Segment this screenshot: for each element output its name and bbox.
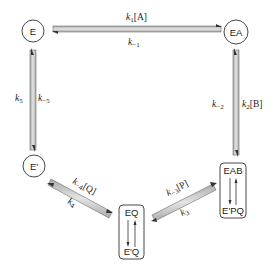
svg-text:EQ: EQ bbox=[125, 207, 139, 218]
mechanism-diagram: E EA E' EAB E'PQ EQ E'Q k1[A] bbox=[0, 0, 278, 274]
node-E-prime: E' bbox=[23, 155, 45, 177]
label-km1: k−1 bbox=[128, 37, 140, 49]
label-k2B: k2[B] bbox=[242, 99, 262, 111]
edge-E-EA: k1[A] k−1 bbox=[52, 12, 222, 49]
node-EQ-EQ-box: EQ E'Q bbox=[119, 205, 144, 259]
node-EAB-EPQ-box: EAB E'PQ bbox=[220, 163, 246, 218]
label-k5: k5 bbox=[15, 93, 23, 105]
svg-text:EA: EA bbox=[230, 27, 243, 38]
label-km3P: k−3[P] bbox=[164, 178, 190, 199]
node-EA: EA bbox=[224, 20, 248, 44]
svg-text:E'Q: E'Q bbox=[124, 246, 140, 257]
svg-text:E'PQ: E'PQ bbox=[222, 205, 244, 216]
svg-text:E': E' bbox=[30, 161, 38, 172]
edge-EA-EAB: k−2 k2[B] bbox=[212, 48, 262, 157]
label-km5: k−5 bbox=[38, 93, 50, 105]
edge-E-Eprime: k5 k−5 bbox=[15, 48, 50, 152]
svg-text:EAB: EAB bbox=[223, 165, 242, 176]
svg-text:E: E bbox=[30, 26, 36, 37]
edge-EAB-EQ: k−3[P] k3 bbox=[151, 178, 217, 222]
label-k3: k3 bbox=[178, 205, 191, 219]
label-km2: k−2 bbox=[212, 99, 224, 111]
edge-Eprime-EQ: k−4[Q] k4 bbox=[47, 176, 113, 218]
node-E: E bbox=[22, 20, 44, 42]
label-k1A: k1[A] bbox=[126, 12, 147, 24]
